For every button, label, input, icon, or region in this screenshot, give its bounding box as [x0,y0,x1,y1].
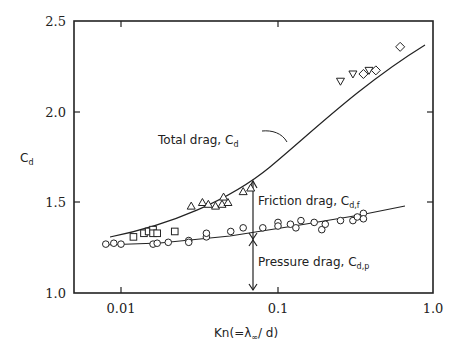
pressure-drag-label: Pressure drag, Cd,p [258,255,369,271]
circle-marker [118,241,125,248]
ytick-1.0: 1.0 [45,286,66,301]
circle-marker [259,225,266,232]
xtick-1.0: 1.0 [423,301,444,316]
total-drag-label: Total drag, Cd [157,133,238,149]
triangle-up-marker [239,188,247,195]
circle-marker [240,225,247,232]
diamond-marker [396,42,405,51]
xtick-0.01: 0.01 [107,301,136,316]
x-axis-label: Kn(=λ∞/ d) [214,326,278,342]
triangle-down-marker [349,71,357,78]
circle-marker [311,219,318,226]
circle-marker [293,225,300,232]
triangle-down-marker [336,78,344,85]
square-marker [130,234,137,241]
drag-coefficient-chart: 2.5 2.0 1.5 1.0 0.01 0.1 1.0 Cd Kn(=λ∞/ … [0,0,463,350]
square-marker [154,230,161,237]
circle-marker [227,228,234,235]
xtick-0.1: 0.1 [268,301,289,316]
ytick-1.5: 1.5 [45,195,66,210]
circle-marker [337,217,344,224]
circle-marker [275,223,282,230]
circle-marker [102,241,109,248]
circle-marker [354,214,361,221]
circle-marker [360,215,367,222]
y-axis-label: Cd [20,151,33,167]
ytick-2.5: 2.5 [45,14,66,29]
circle-marker [298,217,305,224]
triangle-up-marker [187,202,195,209]
drag-arrows [249,181,257,290]
ytick-2.0: 2.0 [45,105,66,120]
circle-marker [111,240,118,247]
circle-marker [185,239,192,246]
triangle-up-marker [198,199,206,206]
circle-marker [154,240,161,247]
total-drag-leader [262,131,287,142]
friction-drag-label: Friction drag, Cd,f [258,194,360,210]
pressure-drag-curve [103,206,405,245]
circle-marker [322,221,329,228]
circle-marker [165,239,172,246]
circle-marker [203,230,210,237]
square-marker [171,228,178,235]
